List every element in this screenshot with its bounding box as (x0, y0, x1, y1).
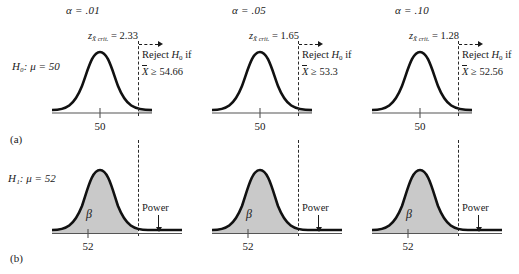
power-label-3: Power (462, 202, 489, 213)
power-arrow-3 (478, 215, 479, 227)
power-arrow-1 (158, 215, 159, 227)
alt-distribution-curve-2 (212, 160, 342, 240)
beta-symbol-3: β (406, 207, 412, 222)
beta-symbol-1: β (86, 207, 92, 222)
null-distribution-curve-3 (372, 40, 472, 120)
power-label-2: Power (302, 202, 329, 213)
ge-symbol-2: ≥ (311, 66, 317, 77)
power-arrow-2 (318, 215, 319, 227)
reject-rule-line2-2: X ≥ 53.3 (302, 65, 352, 78)
null-distribution-curve-2 (212, 40, 312, 120)
reject-rule-line1-3: Reject H0 if (462, 48, 512, 65)
subfigure-label-a: (a) (10, 133, 22, 145)
z-critical-value-3: 1.28 (441, 30, 459, 41)
tick-label-null-mean-1: 50 (70, 120, 130, 132)
critical-line-top-3 (458, 41, 459, 116)
reject-rule-line1-1: Reject H0 if (142, 48, 192, 65)
tick-label-null-mean-3: 50 (390, 120, 450, 132)
tick-label-alt-mean-1: 52 (58, 240, 118, 252)
alt-distribution-curve-3 (372, 160, 502, 240)
xbar-critical-value-3: 52.56 (479, 66, 503, 77)
alpha-label-panel-2: α = .05 (232, 4, 266, 16)
z-critical-subscript-1: X̄ crit. (92, 35, 108, 42)
tick-label-alt-mean-3: 52 (378, 240, 438, 252)
reject-rule-2: Reject H0 if X ≥ 53.3 (302, 48, 352, 78)
xbar-critical-value-2: 53.3 (319, 66, 337, 77)
tick-label-null-mean-2: 50 (230, 120, 290, 132)
z-critical-annotation-3: zX̄ crit. = 1.28 (409, 30, 459, 42)
alt-hypothesis-label: H₁: μ = 52 (8, 172, 56, 184)
xbar-critical-value-1: 54.66 (159, 66, 183, 77)
alt-distribution-curve-1 (52, 160, 182, 240)
z-critical-value-1: 2.33 (120, 30, 138, 41)
reject-rule-line2-3: X ≥ 52.56 (462, 65, 512, 78)
null-distribution-curve-1 (52, 40, 152, 120)
power-label-1: Power (142, 202, 169, 213)
reject-rule-3: Reject H0 if X ≥ 52.56 (462, 48, 512, 78)
ge-symbol-3: ≥ (471, 66, 477, 77)
z-critical-subscript-3: X̄ crit. (413, 35, 429, 42)
alpha-label-panel-3: α = .10 (395, 4, 429, 16)
power-and-beta-figure: α = .01 α = .05 α = .10 H₀: μ = 50 50 50… (0, 0, 519, 274)
critical-line-top-1 (138, 41, 139, 116)
reject-rule-1: Reject H0 if X ≥ 54.66 (142, 48, 192, 78)
z-critical-annotation-2: zX̄ crit. = 1.65 (249, 30, 299, 42)
z-critical-subscript-2: X̄ crit. (253, 35, 269, 42)
subfigure-label-b: (b) (10, 252, 23, 264)
z-critical-value-2: 1.65 (281, 30, 299, 41)
ge-symbol-1: ≥ (151, 66, 157, 77)
critical-line-top-2 (298, 41, 299, 116)
z-critical-annotation-1: zX̄ crit. = 2.33 (88, 30, 138, 42)
reject-rule-line2-1: X ≥ 54.66 (142, 65, 192, 78)
reject-rule-line1-2: Reject H0 if (302, 48, 352, 65)
tick-label-alt-mean-2: 52 (218, 240, 278, 252)
alpha-label-panel-1: α = .01 (66, 4, 100, 16)
beta-symbol-2: β (246, 207, 252, 222)
